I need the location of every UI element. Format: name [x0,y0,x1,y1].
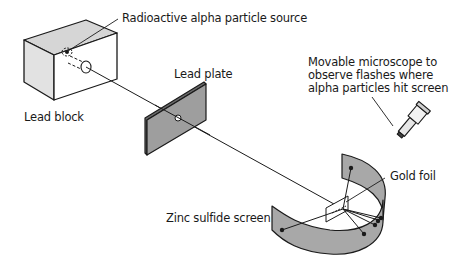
microscope-leader-line [372,97,393,126]
source-label: Radioactive alpha particle source [122,12,307,25]
microscope-label-line-3: alpha particles hit screen [308,82,448,95]
lead-plate-label: Lead plate [174,68,232,81]
microscope-label: Movable microscope to observe flashes wh… [308,56,448,95]
lead-block-label: Lead block [24,111,84,124]
microscope-icon [394,101,431,141]
lead-block [24,20,117,100]
lead-plate [145,82,206,155]
scatter-path-right-3 [343,209,381,218]
flash-point-icon [280,228,284,232]
flash-point-icon [362,232,366,236]
scatter-path-right-1 [343,209,375,225]
flash-point-icon [379,216,383,220]
experiment-diagram [0,0,457,270]
alpha-beam-line [86,67,343,209]
gold-foil-label: Gold foil [390,170,436,183]
flash-point-icon [373,223,377,227]
flash-point-icon [349,166,353,170]
screen-label: Zinc sulfide screen [166,212,271,225]
zinc-sulfide-screen [272,154,385,254]
